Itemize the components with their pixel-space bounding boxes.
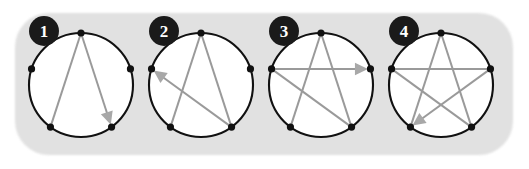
step-badge-label-1: 1 [40,22,49,41]
vertex-dot-4-upper-left [388,65,395,72]
vertex-dot-4-top [437,29,444,36]
vertex-dot-4-lower-right [468,123,475,130]
step-badge-label-3: 3 [280,22,289,41]
vertex-dot-1-upper-right [127,65,134,72]
vertex-dot-3-lower-right [348,123,355,130]
circle-outline-3 [269,33,373,137]
figure-canvas: 1234 [0,0,529,169]
step-badge-label-2: 2 [160,22,169,41]
pentagram-sequence-diagram: 1234 [0,0,529,169]
vertex-dot-3-upper-right [367,65,374,72]
circle-outline-4 [389,33,493,137]
vertex-dot-1-upper-left [28,65,35,72]
circle-outline-2 [149,33,253,137]
vertex-dot-2-top [197,29,204,36]
vertex-dot-4-upper-right [487,65,494,72]
vertex-dot-3-lower-left [287,123,294,130]
vertex-dot-2-lower-right [228,123,235,130]
vertex-dot-3-top [317,29,324,36]
vertex-dot-1-lower-right [108,123,115,130]
vertex-dot-1-lower-left [47,123,54,130]
vertex-dot-2-upper-left [148,65,155,72]
vertex-dot-1-top [77,29,84,36]
vertex-dot-2-lower-left [167,123,174,130]
circle-outline-1 [29,33,133,137]
vertex-dot-4-lower-left [407,123,414,130]
step-badge-label-4: 4 [400,22,409,41]
vertex-dot-2-upper-right [247,65,254,72]
vertex-dot-3-upper-left [268,65,275,72]
